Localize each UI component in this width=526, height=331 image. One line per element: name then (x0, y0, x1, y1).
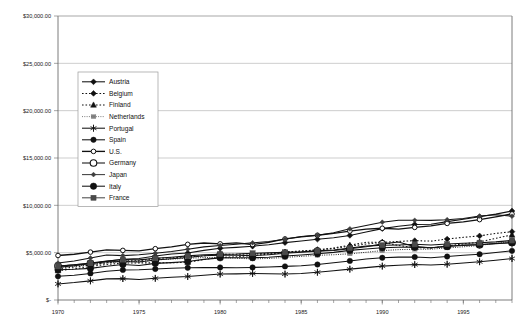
data-point (185, 253, 190, 258)
y-tick-label: $30,000.00 (23, 13, 51, 19)
data-point (88, 250, 93, 255)
data-point (477, 240, 482, 245)
data-point (120, 267, 125, 272)
data-point (380, 220, 385, 225)
data-point (444, 236, 450, 242)
x-tick-label: 1975 (133, 309, 145, 315)
x-tick-label: 1990 (376, 309, 388, 315)
data-point (509, 238, 514, 243)
legend-label: Austria (109, 78, 130, 85)
data-point (91, 137, 96, 142)
data-point (88, 260, 93, 265)
data-point (185, 265, 190, 270)
data-point (91, 195, 96, 200)
data-point (412, 225, 417, 230)
data-point (90, 183, 96, 189)
data-point (315, 262, 320, 267)
data-point (185, 247, 190, 252)
data-point (412, 242, 417, 247)
y-tick-label: $25,000.00 (23, 61, 51, 67)
legend-label: Finland (109, 101, 131, 108)
data-point (444, 254, 449, 259)
data-point (55, 274, 60, 279)
data-point (153, 256, 158, 261)
x-tick-label: 1980 (214, 309, 226, 315)
legend-label: Japan (109, 171, 127, 179)
legend-label: Portugal (109, 125, 134, 133)
line-chart: $-$5,000.00$10,000.00$15,000.00$20,000.0… (0, 0, 526, 331)
data-point (217, 265, 222, 270)
data-point (90, 160, 97, 167)
legend-label: France (109, 194, 130, 201)
legend-label: Spain (109, 136, 126, 144)
data-point (185, 258, 191, 264)
data-point (347, 258, 352, 263)
data-point (315, 248, 320, 253)
data-point (55, 264, 60, 269)
data-point (509, 248, 514, 253)
legend-label: Italy (109, 183, 122, 191)
data-point (347, 245, 352, 250)
data-point (477, 252, 482, 257)
data-point (445, 241, 450, 246)
data-point (282, 264, 287, 269)
data-point (380, 255, 385, 260)
data-point (120, 257, 125, 262)
chart-container: $-$5,000.00$10,000.00$15,000.00$20,000.0… (0, 0, 526, 331)
data-point (477, 233, 483, 239)
x-tick-label: 1970 (52, 309, 64, 315)
x-tick-label: 1995 (457, 309, 469, 315)
data-point (412, 254, 417, 259)
legend-label: Germany (109, 159, 137, 167)
y-tick-label: $5,000.00 (26, 250, 51, 256)
legend-label: Netherlands (109, 113, 145, 120)
data-point (121, 248, 126, 253)
data-point (250, 265, 255, 270)
data-point (91, 115, 96, 119)
y-tick-label: $20,000.00 (23, 108, 51, 114)
data-point (380, 226, 385, 231)
data-point (380, 243, 385, 248)
data-point (218, 252, 223, 257)
data-point (153, 266, 158, 271)
legend-label: Belgium (109, 90, 133, 98)
y-tick-label: $10,000.00 (23, 203, 51, 209)
data-point (91, 149, 96, 154)
data-point (185, 242, 190, 247)
data-point (250, 251, 255, 256)
legend: AustriaBelgiumFinlandNetherlandsPortugal… (78, 72, 158, 207)
data-point (56, 253, 61, 258)
y-tick-label: $- (46, 297, 51, 303)
legend-label: U.S. (109, 148, 122, 155)
data-point (152, 260, 158, 266)
data-point (282, 250, 287, 255)
data-point (88, 256, 93, 261)
y-tick-label: $15,000.00 (23, 155, 51, 161)
data-point (153, 246, 158, 251)
data-point (412, 218, 417, 223)
data-point (87, 265, 93, 271)
x-tick-label: 1985 (295, 309, 307, 315)
